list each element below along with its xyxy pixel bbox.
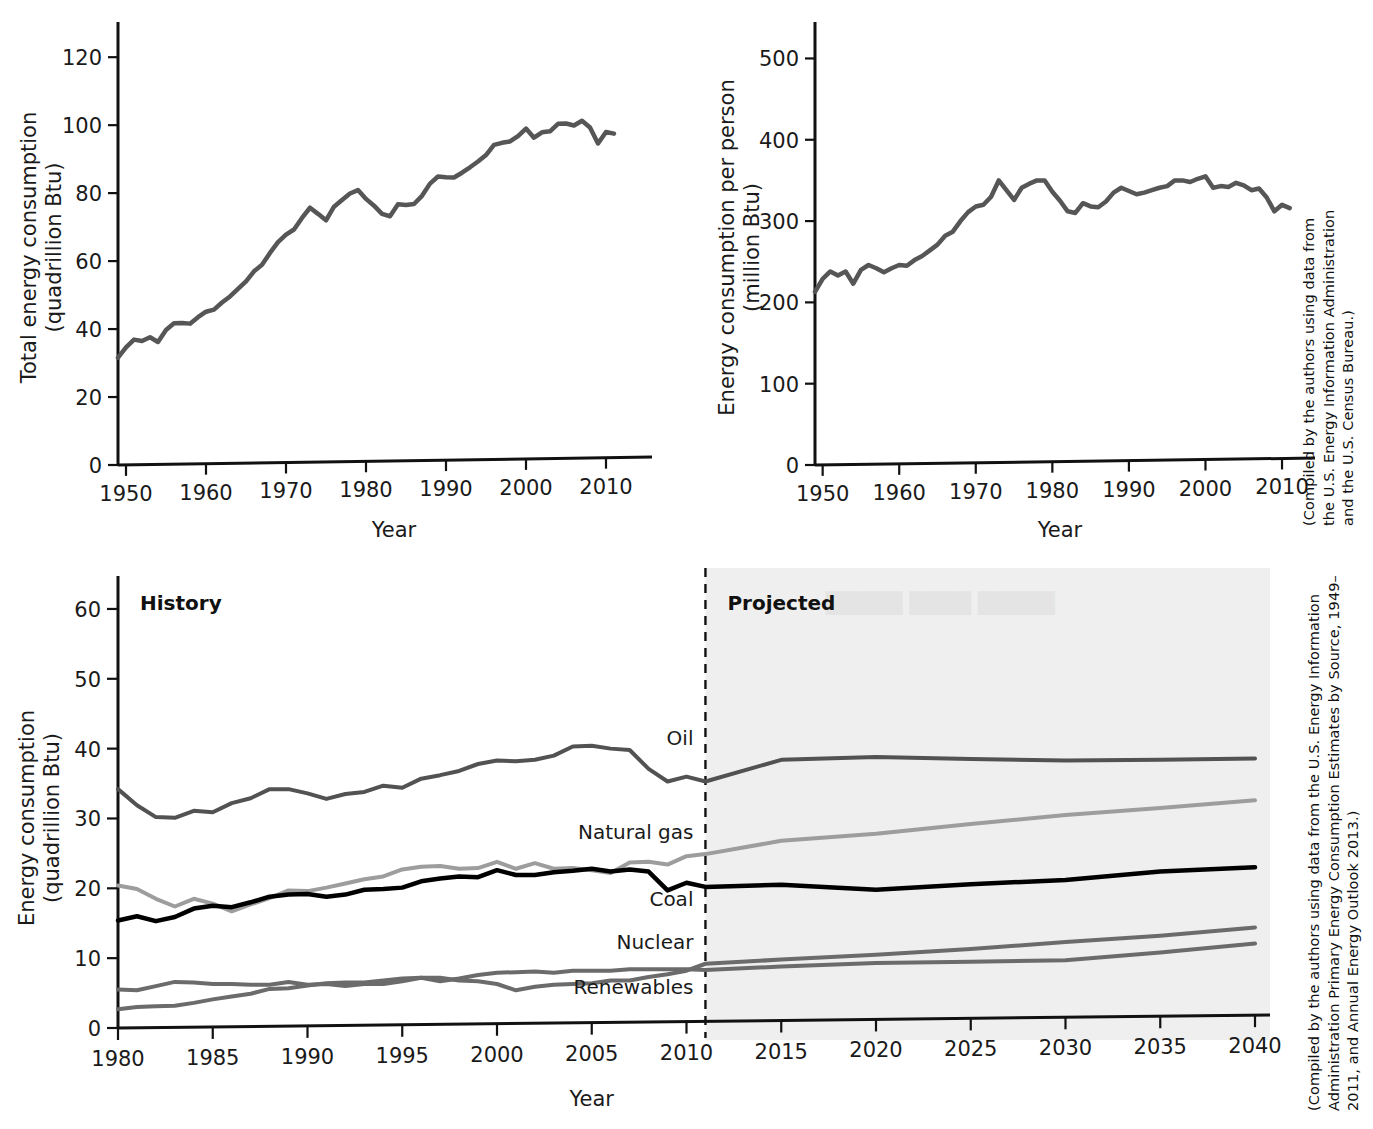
ghost-text-1: █████ ████ █████ (824, 591, 1055, 615)
y-tick-label: 400 (759, 129, 799, 153)
energy-consumption-by-source-svg: █████ ████ █████010203040506019801985199… (0, 550, 1300, 1129)
projected-label: Projected (727, 591, 835, 615)
x-tick-label: 2040 (1228, 1034, 1281, 1058)
x-tick-label: 2005 (565, 1042, 618, 1066)
x-tick-label: 2010 (579, 475, 632, 499)
series-label-natural-gas: Natural gas (578, 820, 694, 844)
y-tick-label: 0 (89, 454, 102, 478)
data-line-per-person (815, 176, 1290, 291)
x-tick-label: 1950 (796, 482, 849, 506)
y-tick-label: 40 (74, 738, 101, 762)
caption-top-right: (Compiled by the authors using data from… (1300, 196, 1360, 526)
y-tick-label: 30 (74, 807, 101, 831)
y-axis-title: Energy consumption(quadrillion Btu) (15, 710, 64, 926)
caption-bottom-right: (Compiled by the authors using data from… (1305, 556, 1365, 1111)
x-tick-label: 2010 (660, 1041, 713, 1065)
x-tick-label: 2030 (1039, 1036, 1092, 1060)
x-tick-label: 1960 (872, 481, 925, 505)
y-tick-label: 120 (62, 46, 102, 70)
x-axis-title: Year (371, 518, 417, 542)
data-line-total-energy (118, 121, 614, 358)
y-tick-label: 20 (75, 386, 102, 410)
x-tick-label: 1980 (1026, 479, 1079, 503)
y-tick-label: 300 (759, 210, 799, 234)
x-tick-label: 1985 (186, 1046, 239, 1070)
x-tick-label: 2020 (849, 1038, 902, 1062)
x-tick-label: 1990 (1102, 478, 1155, 502)
y-axis-title-line2: (million Btu) (740, 183, 764, 312)
x-axis-line (118, 457, 652, 465)
series-label-nuclear: Nuclear (616, 930, 694, 954)
x-tick-label: 2000 (1179, 477, 1232, 501)
y-tick-label: 50 (74, 668, 101, 692)
chart-total-energy-consumption: 0204060801001201950196019701980199020002… (0, 0, 690, 540)
x-tick-label: 1990 (281, 1045, 334, 1069)
y-tick-label: 0 (786, 454, 799, 478)
x-tick-label: 1960 (179, 481, 232, 505)
y-tick-label: 20 (74, 877, 101, 901)
x-tick-label: 2015 (755, 1040, 808, 1064)
x-tick-label: 1980 (91, 1047, 144, 1071)
chart-energy-consumption-by-source: █████ ████ █████010203040506019801985199… (0, 550, 1300, 1129)
y-tick-label: 40 (75, 318, 102, 342)
x-tick-label: 1990 (419, 477, 472, 501)
x-axis-title: Year (569, 1087, 615, 1111)
y-tick-label: 500 (759, 47, 799, 71)
y-tick-label: 10 (74, 947, 101, 971)
total-energy-consumption-svg: 0204060801001201950196019701980199020002… (0, 0, 690, 540)
y-tick-label: 60 (74, 598, 101, 622)
page-ghost-artifact: █████ ████ █████ (824, 591, 1055, 615)
series-label-oil: Oil (667, 726, 694, 750)
y-tick-label: 100 (759, 373, 799, 397)
y-axis-title-line2: (quadrillion Btu) (40, 733, 64, 903)
x-tick-label: 1970 (949, 480, 1002, 504)
series-label-coal: Coal (649, 887, 693, 911)
y-tick-label: 80 (75, 182, 102, 206)
x-tick-label: 1950 (99, 482, 152, 506)
x-tick-label: 2035 (1134, 1035, 1187, 1059)
y-axis-title-line1: Energy consumption (15, 710, 39, 926)
history-label: History (140, 591, 222, 615)
x-axis-line (815, 458, 1315, 465)
y-axis-title-line1: Total energy consumption (17, 112, 41, 385)
y-tick-label: 0 (88, 1017, 101, 1041)
y-tick-label: 100 (62, 114, 102, 138)
x-tick-label: 2000 (470, 1043, 523, 1067)
x-tick-label: 1995 (376, 1044, 429, 1068)
chart-energy-consumption-per-person: 0100200300400500195019601970198019902000… (690, 0, 1290, 540)
energy-consumption-per-person-svg: 0100200300400500195019601970198019902000… (690, 0, 1290, 540)
x-axis-title: Year (1037, 518, 1083, 542)
y-axis-title: Energy consumption per person(million Bt… (715, 79, 764, 415)
x-tick-label: 1970 (259, 479, 312, 503)
x-tick-label: 2000 (499, 476, 552, 500)
y-axis-title-line2: (quadrillion Btu) (42, 163, 66, 333)
series-label-renewables: Renewables (574, 975, 694, 999)
y-axis-title: Total energy consumption(quadrillion Btu… (17, 112, 66, 385)
x-tick-label: 1980 (339, 478, 392, 502)
y-tick-label: 200 (759, 291, 799, 315)
x-tick-label: 2025 (944, 1037, 997, 1061)
y-axis-title-line1: Energy consumption per person (715, 79, 739, 415)
y-tick-label: 60 (75, 250, 102, 274)
